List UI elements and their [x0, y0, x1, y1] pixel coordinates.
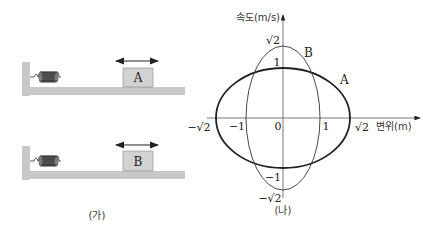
spring-a	[30, 74, 38, 77]
curve-a-label: A	[339, 73, 349, 87]
block-b-label: B	[134, 155, 143, 169]
x-tick-sqrt2: √2	[355, 121, 369, 134]
x-tick-neg-1: −1	[229, 120, 245, 133]
spring-b	[30, 158, 38, 161]
y-tick-neg-1: −1	[265, 171, 281, 184]
y-tick-sqrt2: √2	[266, 34, 280, 47]
caption-na: (나)	[275, 205, 292, 216]
spring-coils-b	[38, 156, 61, 167]
x-axis-label: 변위(m)	[376, 120, 412, 132]
spring-system-b: B	[22, 145, 185, 180]
spring-system-a: A	[22, 61, 185, 96]
floor-b	[22, 171, 185, 179]
y-tick-neg-sqrt2: −√2	[258, 192, 281, 205]
x-tick-1: 1	[323, 120, 330, 133]
spring-coils-a	[38, 72, 61, 83]
floor-a	[22, 87, 185, 95]
block-a-label: A	[133, 71, 143, 85]
phase-plot: A B 속도(m/s) 변위(m) −√2 −1 0 1 √2 √2 1 −1 …	[187, 12, 420, 216]
curve-b-label: B	[304, 46, 313, 60]
x-tick-0: 0	[275, 120, 282, 133]
y-tick-1: 1	[274, 56, 281, 69]
y-axis-label: 속도(m/s)	[236, 12, 280, 23]
caption-ga: (가)	[89, 210, 106, 221]
x-tick-neg-sqrt2: −√2	[187, 121, 210, 134]
